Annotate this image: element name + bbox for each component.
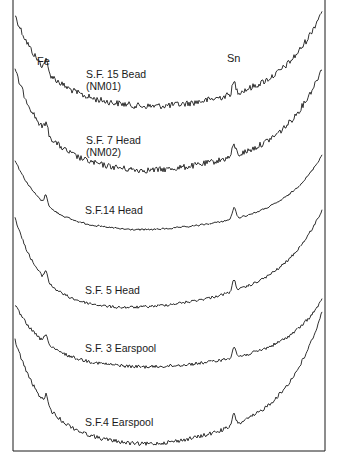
series-label: S.F. 5 Head: [85, 284, 140, 296]
series-name: S.F. 3 Earspool: [85, 342, 156, 354]
fe-peak-label: Fe: [37, 55, 50, 67]
sn-peak-label: Sn: [227, 52, 240, 64]
spectrum-trace: [15, 11, 322, 109]
series-name: S.F. 5 Head: [85, 284, 140, 296]
series-sample-id: (NM01): [86, 80, 146, 92]
series-label: S.F. 3 Earspool: [85, 342, 156, 354]
xrf-spectra-chart: [0, 0, 339, 460]
series-label: S.F.14 Head: [85, 204, 143, 216]
series-name: S.F.14 Head: [85, 204, 143, 216]
spectrum-trace: [15, 210, 322, 309]
series-label: S.F. 15 Bead(NM01): [86, 68, 146, 92]
series-label: S.F.4 Earspool: [85, 416, 153, 428]
series-sample-id: (NM02): [86, 146, 141, 158]
series-label: S.F. 7 Head(NM02): [86, 134, 141, 158]
spectrum-trace: [15, 312, 322, 446]
spectrum-trace: [15, 155, 322, 231]
series-name: S.F. 15 Bead: [86, 68, 146, 80]
chart-frame: [13, 0, 325, 451]
series-name: S.F.4 Earspool: [85, 416, 153, 428]
series-name: S.F. 7 Head: [86, 134, 141, 146]
spectra-traces: [15, 11, 322, 445]
spectrum-trace: [15, 299, 322, 369]
frame-axes: [13, 0, 325, 451]
